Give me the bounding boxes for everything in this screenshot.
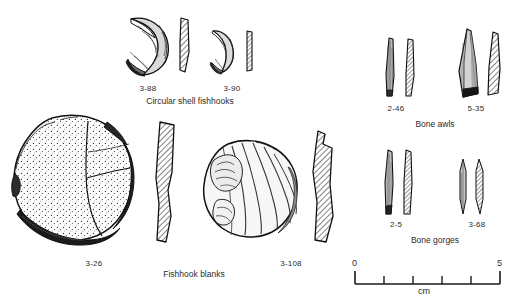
profile-3-108 [308, 128, 344, 246]
profile-2-5 [404, 150, 412, 214]
artifact-5-35 [452, 27, 506, 103]
hook-body-3-90 [210, 31, 233, 74]
artifact-3-68 [454, 157, 496, 217]
specimen-label-3-68: 3-68 [461, 220, 493, 229]
profile-3-90 [247, 31, 252, 71]
artifact-3-90 [203, 27, 265, 82]
hook-body-3-88 [126, 18, 168, 76]
gorge-body-3-68 [460, 159, 466, 214]
scale-label-end: 5 [497, 258, 502, 268]
specimen-label-5-35: 5-35 [458, 104, 494, 113]
specimen-label-3-26: 3-26 [76, 259, 112, 268]
specimen-label-2-46: 2-46 [378, 104, 414, 113]
group-label-bone-awls: Bone awls [392, 119, 478, 129]
group-label-fishhook-blanks: Fishhook blanks [134, 269, 254, 279]
artifact-3-88 [118, 12, 198, 82]
scale-label-start: 0 [352, 258, 357, 268]
specimen-label-3-108: 3-108 [271, 259, 311, 268]
shell-blank-3-26 [12, 115, 134, 245]
specimen-label-3-90: 3-90 [214, 84, 250, 93]
scale-bar-graphic [355, 271, 500, 284]
gorge-body-2-5 [385, 150, 393, 214]
shell-blank-3-108 [204, 141, 297, 237]
artifact-3-108 [198, 138, 306, 242]
group-label-circular-shell-fishhooks: Circular shell fishhooks [130, 96, 250, 106]
artifact-2-46 [378, 36, 424, 100]
specimen-label-2-5: 2-5 [380, 220, 412, 229]
profile-2-46 [406, 39, 414, 96]
profile-5-35 [488, 32, 500, 95]
profile-3-68 [476, 159, 483, 214]
scale-unit-label: cm [418, 286, 430, 296]
profile-3-26 [152, 120, 186, 246]
artifact-2-5 [378, 148, 422, 218]
profile-3-88 [180, 18, 189, 72]
awl-body-2-46 [386, 38, 394, 96]
artifact-plate: 3-88 3-90 Circular shell fishhooks [0, 0, 513, 307]
artifact-3-26 [8, 112, 148, 247]
group-label-bone-gorges: Bone gorges [392, 235, 478, 245]
awl-body-5-35 [459, 29, 478, 97]
specimen-label-3-88: 3-88 [130, 84, 166, 93]
